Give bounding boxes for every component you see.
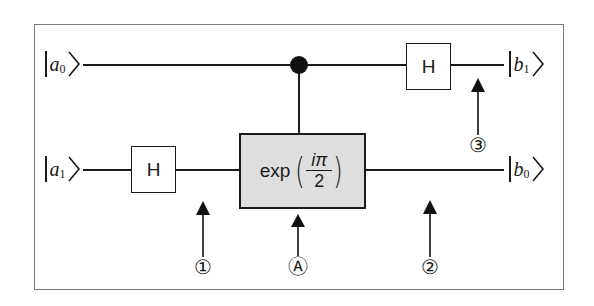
input-ket-a1: a 1 [45,154,81,184]
ket-angle-icon [531,155,545,183]
ket-symbol: b [514,53,524,76]
fraction-numerator: iπ [311,151,327,170]
ket-bar [509,156,511,182]
arrow-up-icon [470,78,486,135]
input-ket-a0: a 0 [45,49,81,79]
ket-subscript: 0 [60,62,66,77]
exp-fraction: iπ 2 [306,151,332,192]
gate-label: H [422,56,436,78]
arrow-up-icon [290,214,306,256]
ket-bar [45,156,47,182]
ket-subscript: 1 [524,62,530,77]
output-ket-b1: b 1 [509,49,545,79]
ket-bar [45,51,47,77]
top-wire-segment-2 [450,64,504,66]
ket-angle-icon [531,50,545,78]
bottom-wire-segment-3 [365,169,504,171]
exp-expression: exp ( iπ 2 ) [260,151,346,192]
control-dot [290,56,308,74]
ket-symbol: b [514,158,524,181]
bottom-wire-segment-1 [83,169,131,171]
arrow-up-icon [195,201,211,257]
marker-label: Ⓐ [288,257,308,277]
ket-subscript: 0 [524,167,530,182]
right-paren: ) [333,153,343,189]
control-line [298,65,300,133]
bottom-wire-segment-2 [175,169,239,171]
gate-label: H [147,159,161,181]
ket-subscript: 1 [60,167,66,182]
fraction-denominator: 2 [314,171,324,191]
marker-1: ① [193,257,213,277]
marker-a: Ⓐ [288,257,308,277]
ket-angle-icon [67,50,81,78]
hadamard-gate-bottom: H [131,146,176,193]
output-ket-b0: b 0 [509,154,545,184]
marker-label: ③ [469,135,487,155]
controlled-exp-gate: exp ( iπ 2 ) [239,133,366,209]
ket-angle-icon [67,155,81,183]
ket-symbol: a [50,158,60,181]
marker-label: ① [194,257,212,277]
marker-3: ③ [468,135,488,155]
hadamard-gate-top: H [406,43,451,90]
exp-prefix: exp [260,160,291,182]
arrow-up-icon [422,200,438,257]
marker-2: ② [420,257,440,277]
ket-symbol: a [50,53,60,76]
marker-label: ② [421,257,439,277]
ket-bar [509,51,511,77]
top-wire-segment-1 [83,64,406,66]
left-paren: ( [295,153,305,189]
